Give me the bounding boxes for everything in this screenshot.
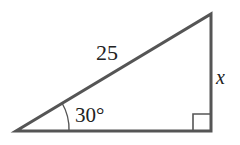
right-triangle-diagram: 25 30° x	[0, 0, 240, 145]
hypotenuse-label: 25	[96, 40, 118, 65]
angle-arc	[62, 103, 69, 131]
side-x-label: x	[215, 66, 225, 88]
angle-label: 30°	[75, 103, 104, 127]
right-angle-marker	[193, 114, 211, 131]
triangle-outline	[16, 14, 211, 131]
